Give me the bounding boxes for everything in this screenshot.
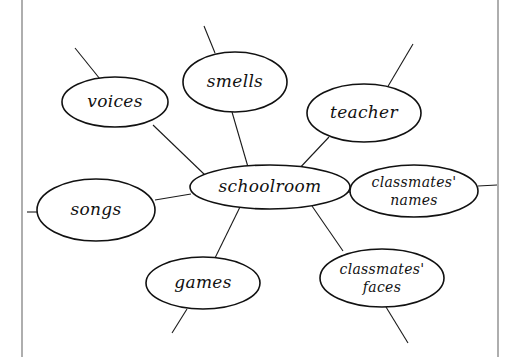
node-ellipse: [320, 249, 444, 307]
node-label: voices: [87, 91, 142, 111]
branch-stub-games: [172, 309, 187, 333]
connector-smells: [232, 112, 248, 167]
center-node: schoolroom: [190, 165, 350, 209]
node-smells: smells: [183, 52, 287, 112]
node-label: classmates': [372, 174, 457, 190]
connector-voices: [153, 125, 205, 175]
connector-games: [215, 207, 240, 258]
node-teacher: teacher: [307, 84, 421, 142]
node-label: faces: [362, 279, 401, 295]
branch-stub-voices: [75, 48, 100, 79]
center-node-label: schoolroom: [219, 176, 322, 196]
branch-stub-classmates-faces: [386, 307, 408, 343]
node-songs: songs: [37, 179, 155, 241]
node-label: smells: [207, 71, 263, 91]
node-classmates-names: classmates'names: [350, 165, 478, 217]
node-label: songs: [70, 199, 121, 219]
branch-stub-teacher: [387, 44, 413, 88]
cluster-diagram: voicessmellsteacherclassmates'namessongs…: [0, 0, 518, 357]
node-games: games: [146, 257, 260, 309]
node-ellipse: [350, 165, 478, 217]
branch-stub-classmates-names: [478, 185, 497, 186]
connector-classmates-faces: [312, 206, 343, 251]
node-classmates-faces: classmates'faces: [320, 249, 444, 307]
node-voices: voices: [62, 77, 168, 127]
node-label: classmates': [340, 261, 425, 277]
node-label: names: [390, 192, 438, 208]
node-label: teacher: [330, 102, 398, 122]
node-label: games: [174, 272, 231, 292]
branch-stub-smells: [204, 26, 215, 53]
connector-songs: [155, 194, 191, 200]
